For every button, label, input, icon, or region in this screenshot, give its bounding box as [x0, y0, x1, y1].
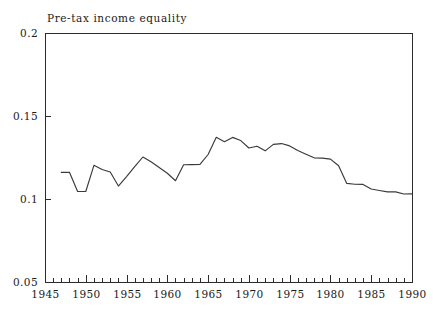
chart-title: Pre-tax income equality: [47, 12, 187, 24]
y-tick-label: 0.2: [20, 27, 38, 39]
x-tick-label: 1955: [113, 288, 141, 300]
plot-frame: [46, 34, 413, 283]
x-tick-label: 1960: [153, 288, 181, 300]
data-series-group: [61, 137, 412, 194]
x-tick-label: 1985: [357, 288, 385, 300]
x-tick-label: 1965: [194, 288, 222, 300]
x-tick-label: 1950: [72, 288, 100, 300]
x-tick-label: 1975: [276, 288, 304, 300]
x-tick-label: 1990: [398, 288, 426, 300]
x-tick-label: 1970: [235, 288, 263, 300]
chart-container: Pre-tax income equality 0.050.10.150.2 1…: [0, 0, 433, 317]
x-axis-major-ticks: [46, 275, 413, 282]
x-axis-tick-labels: 1945195019551960196519701975198019851990: [31, 288, 426, 300]
x-tick-label: 1945: [31, 288, 59, 300]
plot-border: [46, 34, 413, 283]
y-axis-tick-labels: 0.050.10.150.2: [13, 27, 38, 288]
y-tick-label: 0.05: [13, 276, 38, 288]
y-tick-label: 0.1: [20, 193, 38, 205]
x-tick-label: 1980: [316, 288, 344, 300]
data-line-pre-tax-income-equality: [61, 137, 412, 194]
pre-tax-income-equality-line-chart: Pre-tax income equality 0.050.10.150.2 1…: [0, 0, 433, 317]
x-axis-minor-ticks: [54, 278, 405, 282]
y-tick-label: 0.15: [13, 110, 38, 122]
